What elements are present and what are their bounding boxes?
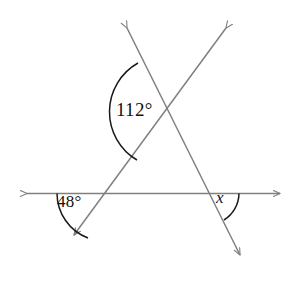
angle-label-112: 112° bbox=[116, 100, 153, 119]
geometry-canvas bbox=[0, 0, 306, 282]
arc-angle-x bbox=[224, 193, 239, 220]
geometry-figure: 112° 48° x bbox=[0, 0, 306, 282]
angle-label-x: x bbox=[216, 189, 224, 206]
angle-label-48: 48° bbox=[57, 193, 82, 210]
line-upper-right-to-lower-left bbox=[74, 28, 226, 235]
line-upper-left-to-lower-right bbox=[127, 28, 240, 255]
